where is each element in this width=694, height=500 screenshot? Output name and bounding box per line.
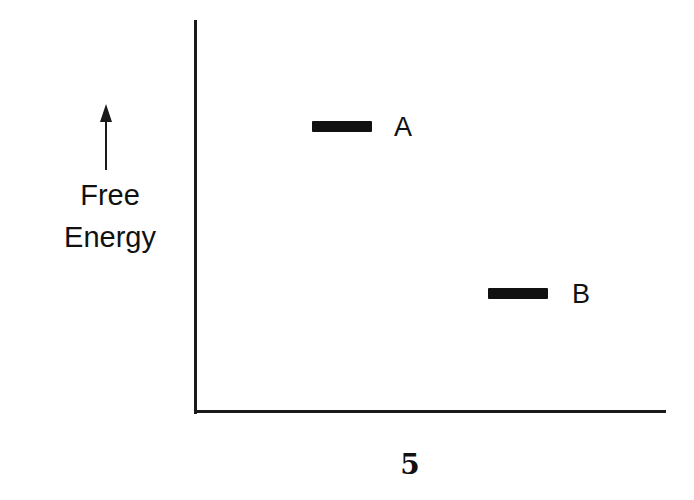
energy-level-b-label: B: [572, 279, 590, 309]
y-axis-label-line2: Energy: [50, 216, 170, 258]
y-axis: [194, 20, 197, 414]
y-axis-label: Free Energy: [50, 174, 170, 258]
energy-level-b: [488, 288, 548, 299]
y-axis-label-line1: Free: [50, 174, 170, 216]
energy-level-a-label: A: [394, 112, 412, 142]
up-arrow-shaft: [105, 118, 107, 170]
figure-number: 5: [390, 448, 430, 481]
x-axis: [194, 410, 666, 413]
energy-level-a: [312, 121, 372, 132]
